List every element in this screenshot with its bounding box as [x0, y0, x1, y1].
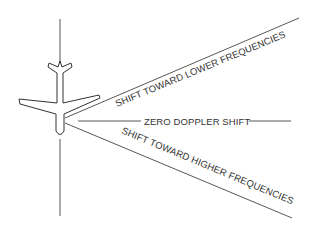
- upper-beam-line: [65, 18, 299, 118]
- lower-beam-line: [65, 123, 292, 218]
- upper-beam-label: SHIFT TOWARD LOWER FREQUENCIES: [114, 29, 287, 109]
- aircraft-icon: [19, 61, 100, 135]
- lower-beam-label: SHIFT TOWARD HIGHER FREQUENCIES: [120, 125, 295, 207]
- center-beam-label: ZERO DOPPLER SHIFT: [144, 116, 250, 127]
- doppler-diagram: SHIFT TOWARD LOWER FREQUENCIES ZERO DOPP…: [0, 0, 313, 233]
